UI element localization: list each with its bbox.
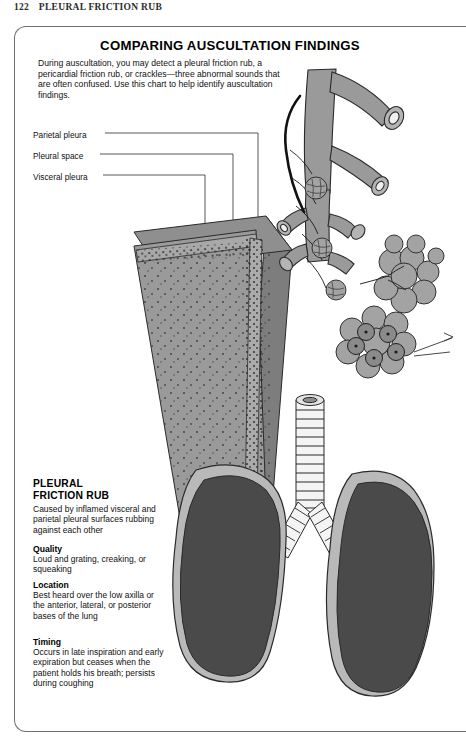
- section-heading-timing: Timing: [33, 637, 61, 647]
- section-body-quality: Loud and grating, creaking, or squeaking: [33, 554, 165, 575]
- running-head: 122 PLEURAL FRICTION RUB: [14, 0, 162, 14]
- chart-title: COMPARING AUSCULTATION FINDINGS: [0, 38, 460, 53]
- callout-label-parietal-pleura: Parietal pleura: [33, 130, 87, 140]
- section-lead-text: Caused by inflamed visceral and parietal…: [33, 504, 165, 535]
- section-title: PLEURAL FRICTION RUB: [33, 478, 109, 501]
- section-title-line1: PLEURAL: [33, 478, 83, 489]
- section-heading-quality: Quality: [33, 544, 62, 554]
- callout-label-visceral-pleura: Visceral pleura: [33, 172, 88, 182]
- chart-intro-paragraph: During auscultation, you may detect a pl…: [38, 58, 286, 100]
- section-title-line2: FRICTION RUB: [33, 490, 109, 501]
- callout-label-pleural-space: Pleural space: [33, 151, 83, 161]
- section-body-timing: Occurs in late inspiration and early exp…: [33, 647, 165, 688]
- page-number: 122: [14, 2, 29, 12]
- section-heading-location: Location: [33, 580, 69, 590]
- section-body-location: Best heard over the low axilla or the an…: [33, 590, 165, 621]
- running-head-title: PLEURAL FRICTION RUB: [39, 2, 162, 12]
